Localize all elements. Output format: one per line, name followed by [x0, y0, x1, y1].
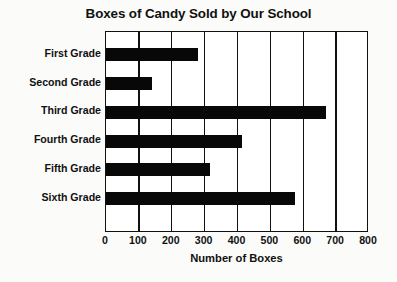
x-tick-label: 800 [359, 234, 377, 246]
x-tick-label: 400 [228, 234, 246, 246]
category-label: Fifth Grade [1, 162, 101, 174]
category-label: First Grade [1, 47, 101, 59]
category-label: Sixth Grade [1, 191, 101, 203]
bar [106, 163, 210, 176]
bar [106, 77, 152, 90]
x-tick-label: 700 [326, 234, 344, 246]
bar [106, 192, 295, 205]
x-tick-label: 500 [261, 234, 279, 246]
category-axis-labels: First GradeSecond GradeThird GradeFourth… [0, 31, 101, 232]
plot-area [105, 31, 368, 232]
x-tick-label: 300 [195, 234, 213, 246]
x-axis-title: Number of Boxes [105, 252, 368, 264]
bar [106, 106, 326, 119]
x-tick-label: 100 [129, 234, 147, 246]
x-tick-label: 200 [162, 234, 180, 246]
category-label: Fourth Grade [1, 133, 101, 145]
chart-title: Boxes of Candy Sold by Our School [0, 6, 397, 21]
bar [106, 48, 198, 61]
x-tick-label: 0 [102, 234, 108, 246]
x-tick-label: 600 [293, 234, 311, 246]
category-label: Second Grade [1, 76, 101, 88]
bar-chart-figure: Boxes of Candy Sold by Our School First … [0, 0, 397, 282]
category-label: Third Grade [1, 104, 101, 116]
bar [106, 135, 242, 148]
x-axis-tick-labels: 0100200300400500600700800 [0, 234, 397, 250]
bars-layer [106, 32, 367, 231]
